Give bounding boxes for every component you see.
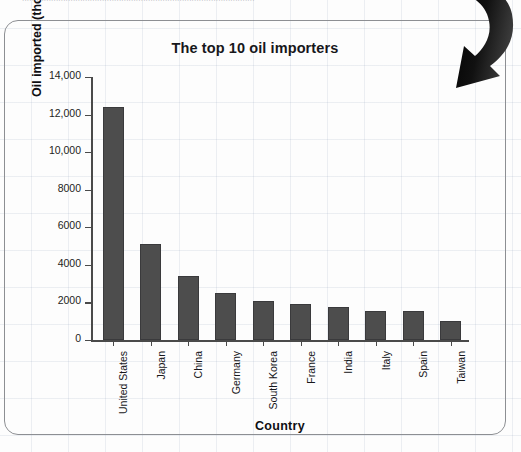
- y-axis-tick: 0: [85, 340, 91, 341]
- chart-panel: The top 10 oil importers Oil imported (t…: [4, 20, 506, 435]
- x-axis-title: Country: [91, 419, 469, 433]
- x-axis-label: United States: [117, 351, 129, 414]
- x-axis-label: India: [342, 351, 354, 374]
- bar: [440, 321, 461, 340]
- bar: [328, 307, 349, 340]
- x-axis-tick: [301, 340, 302, 346]
- y-axis-tick-label: 4000: [58, 257, 81, 269]
- x-axis-tick: [451, 340, 452, 346]
- x-axis-tick: [376, 340, 377, 346]
- x-axis-tick: [226, 340, 227, 346]
- y-axis-tick: 6000: [85, 227, 91, 228]
- y-axis-tick: 4000: [85, 265, 91, 266]
- cut-off-header-text: ........................................…: [22, 0, 492, 2]
- bar: [403, 311, 424, 340]
- y-axis-tick-label: 0: [75, 332, 81, 344]
- x-axis-tick: [263, 340, 264, 346]
- bar: [215, 293, 236, 340]
- bar: [365, 311, 386, 340]
- y-axis-tick: 14,000: [85, 77, 91, 78]
- x-axis-label: Italy: [380, 351, 392, 370]
- bar: [103, 107, 124, 340]
- x-axis-tick: [338, 340, 339, 346]
- x-axis-label: Japan: [155, 351, 167, 380]
- bar: [178, 276, 199, 340]
- y-axis-tick: 2000: [85, 302, 91, 303]
- x-axis-tick: [188, 340, 189, 346]
- y-axis-tick-label: 12,000: [49, 107, 81, 119]
- chart-title: The top 10 oil importers: [5, 40, 505, 56]
- y-axis-tick: 8000: [85, 190, 91, 191]
- y-axis-tick-label: 10,000: [49, 144, 81, 156]
- x-axis-label: South Korea: [267, 351, 279, 409]
- plot-area: 0200040006000800010,00012,00014,000 Unit…: [91, 77, 501, 340]
- x-axis-tick: [113, 340, 114, 346]
- y-axis-line: [91, 77, 93, 340]
- x-axis-label: Taiwan: [455, 351, 467, 384]
- y-axis-tick-label: 2000: [58, 294, 81, 306]
- bar: [253, 301, 274, 340]
- x-axis-label: Spain: [417, 351, 429, 378]
- x-axis-tick: [413, 340, 414, 346]
- y-axis-tick-label: 8000: [58, 182, 81, 194]
- bar: [290, 304, 311, 340]
- y-axis-tick-label: 14,000: [49, 69, 81, 81]
- x-axis-label: France: [305, 351, 317, 384]
- x-axis-tick: [151, 340, 152, 346]
- x-axis-label: Germany: [230, 351, 242, 394]
- bar: [140, 244, 161, 340]
- y-axis-tick-label: 6000: [58, 219, 81, 231]
- y-axis-tick: 10,000: [85, 152, 91, 153]
- y-axis-tick: 12,000: [85, 115, 91, 116]
- x-axis-label: China: [192, 351, 204, 378]
